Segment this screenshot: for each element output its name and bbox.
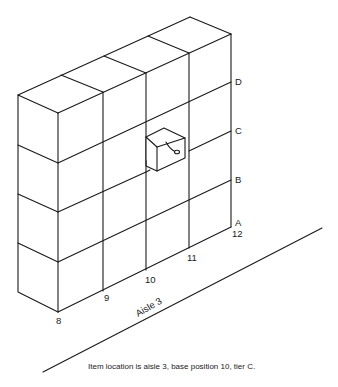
base-label-12: 12	[232, 228, 243, 239]
base-label-8: 8	[56, 315, 61, 326]
rack-left-side	[18, 95, 58, 312]
rack-front	[58, 34, 231, 312]
tier-label-d: D	[235, 76, 242, 87]
rack-top	[18, 17, 231, 95]
rack-diagram: D C B A 8 9 10 11 12 Aisle 3 Item locati…	[0, 0, 338, 387]
tier-label-b: B	[235, 174, 241, 185]
aisle-label: Aisle 3	[134, 295, 164, 319]
tier-label-c: C	[235, 125, 242, 136]
base-label-9: 9	[104, 292, 109, 303]
base-label-11: 11	[187, 252, 197, 263]
tier-label-a: A	[235, 217, 242, 228]
highlighted-item-box[interactable]	[146, 128, 185, 171]
caption: Item location is aisle 3, base position …	[88, 362, 255, 371]
base-label-10: 10	[145, 274, 156, 285]
tier-labels: D C B A	[235, 76, 242, 228]
